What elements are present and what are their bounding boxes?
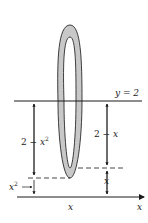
label-x-axis: x (137, 202, 142, 212)
lower-curve-height-dimension (22, 180, 34, 194)
label-y-equals-2: y = 2 (114, 88, 139, 98)
label-lower-curve-height: x2 (9, 180, 18, 192)
label-outer-radius: 2 − x2 (21, 135, 49, 147)
label-inner-radius: 2 − x (94, 129, 118, 139)
label-upper-curve-height: x (104, 176, 109, 186)
label-x-position: x (68, 202, 73, 212)
washer-diagram: y = 2 x x 2 − x2 x2 2 − x x (0, 0, 148, 223)
